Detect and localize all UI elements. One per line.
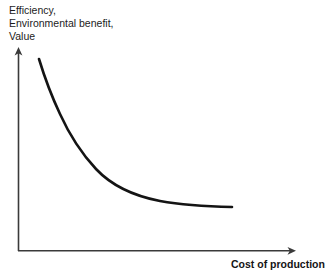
trade-off-curve-chart: Efficiency, Environmental benefit, Value… <box>0 0 329 275</box>
y-axis-label-line-2: Environmental benefit, <box>9 17 113 29</box>
y-axis <box>15 47 23 251</box>
figure-canvas: Efficiency, Environmental benefit, Value… <box>0 0 329 275</box>
y-axis-label-line-3: Value <box>9 30 35 42</box>
x-axis-label: Cost of production <box>231 258 325 270</box>
x-axis <box>18 247 296 255</box>
y-axis-label-line-1: Efficiency, <box>9 4 56 16</box>
trade-off-curve-line <box>39 59 232 207</box>
